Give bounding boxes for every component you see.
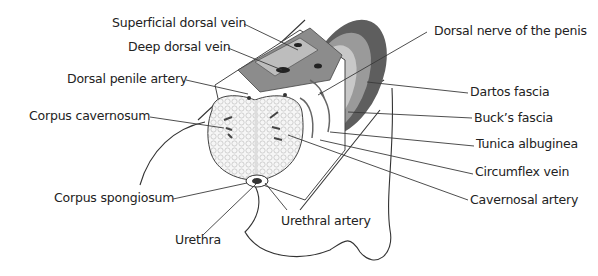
label-corpus-spongiosum: Corpus spongiosum <box>54 191 174 205</box>
label-cavernosal-artery: Cavernosal artery <box>470 193 578 207</box>
label-dorsal-nerve: Dorsal nerve of the penis <box>434 24 587 38</box>
label-urethral-artery: Urethral artery <box>281 214 371 228</box>
label-bucks-fascia: Buck’s fascia <box>474 111 553 125</box>
label-corpus-cavernosum: Corpus cavernosum <box>29 109 150 123</box>
label-urethra: Urethra <box>175 233 221 247</box>
label-superficial-dorsal-vein: Superficial dorsal vein <box>112 16 246 30</box>
label-deep-dorsal-vein: Deep dorsal vein <box>128 40 231 54</box>
label-circumflex-vein: Circumflex vein <box>475 165 569 179</box>
label-dartos-fascia: Dartos fascia <box>470 85 549 99</box>
anatomy-diagram: Superficial dorsal vein Deep dorsal vein… <box>0 0 598 276</box>
label-dorsal-penile-artery: Dorsal penile artery <box>67 72 187 86</box>
label-tunica-albuginea: Tunica albuginea <box>476 137 578 151</box>
